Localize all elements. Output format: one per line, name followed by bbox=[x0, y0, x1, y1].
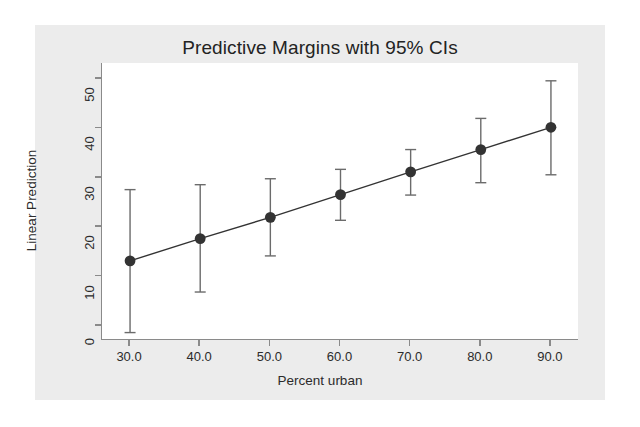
y-axis-title: Linear Prediction bbox=[24, 120, 39, 280]
x-tick-mark bbox=[198, 340, 200, 346]
data-point-marker bbox=[475, 144, 486, 155]
data-point-marker bbox=[265, 212, 276, 223]
y-tick-label: 30 bbox=[82, 176, 97, 210]
x-tick-label: 60.0 bbox=[315, 349, 365, 364]
data-point-marker bbox=[405, 166, 416, 177]
y-tick-label: 20 bbox=[82, 226, 97, 260]
y-tick-label: 10 bbox=[82, 275, 97, 309]
y-tick-label: 0 bbox=[82, 325, 97, 359]
x-tick-mark bbox=[128, 340, 130, 346]
x-tick-mark bbox=[269, 340, 271, 346]
x-tick-mark bbox=[339, 340, 341, 346]
x-tick-mark bbox=[409, 340, 411, 346]
x-tick-label: 40.0 bbox=[174, 349, 224, 364]
predictive-margins-plot bbox=[102, 63, 579, 340]
x-tick-mark bbox=[479, 340, 481, 346]
data-point-marker bbox=[125, 255, 136, 266]
x-tick-label: 50.0 bbox=[244, 349, 294, 364]
chart-title: Predictive Margins with 95% CIs bbox=[35, 37, 605, 59]
x-tick-label: 30.0 bbox=[104, 349, 154, 364]
data-point-marker bbox=[195, 233, 206, 244]
y-tick-label: 50 bbox=[82, 77, 97, 111]
plot-panel bbox=[101, 63, 578, 340]
y-tick-label: 40 bbox=[82, 127, 97, 161]
x-tick-mark bbox=[549, 340, 551, 346]
data-point-marker bbox=[335, 189, 346, 200]
data-point-marker bbox=[546, 122, 557, 133]
x-tick-label: 80.0 bbox=[455, 349, 505, 364]
x-axis-title: Percent urban bbox=[35, 373, 605, 388]
figure-card: Predictive Margins with 95% CIs 01020304… bbox=[35, 25, 605, 400]
x-tick-label: 70.0 bbox=[385, 349, 435, 364]
x-tick-label: 90.0 bbox=[525, 349, 575, 364]
